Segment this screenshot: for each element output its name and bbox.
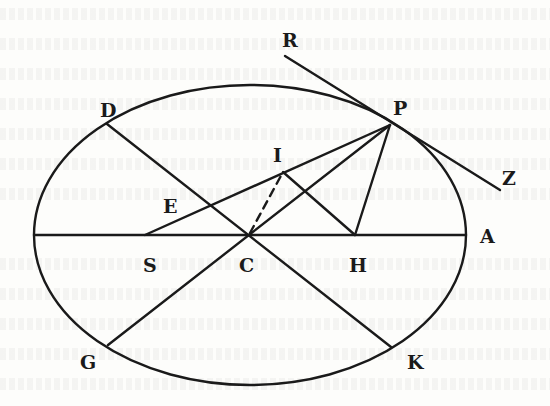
label-g: G [80, 351, 96, 373]
label-p: P [393, 97, 407, 119]
label-d: D [100, 99, 116, 121]
tangent-line-rz [285, 56, 500, 190]
focal-line-hp [355, 125, 390, 235]
label-s: S [143, 254, 157, 276]
label-z: Z [502, 167, 516, 189]
label-k: K [407, 351, 425, 373]
label-a: A [479, 225, 495, 247]
label-h: H [349, 254, 367, 276]
label-e: E [163, 195, 177, 217]
label-r: R [282, 29, 298, 51]
focal-line-sp [145, 125, 390, 235]
label-i: I [273, 144, 282, 166]
ellipse-diagram: R P D I E S C H A G K Z [0, 0, 550, 406]
label-c: C [239, 254, 254, 276]
